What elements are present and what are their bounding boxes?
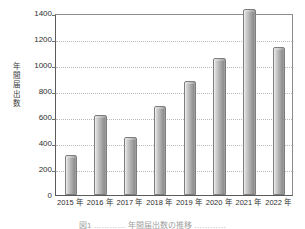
y-axis-title-char: 数: [10, 99, 22, 108]
y-axis-tick-labels: 0200400600800100012001400: [22, 0, 52, 229]
plot-area: [55, 14, 293, 196]
bar-fill: [154, 106, 166, 195]
y-axis-title-char: 出: [10, 90, 22, 99]
bar-fill: [94, 115, 106, 195]
x-axis-tick-label: 2015 年: [55, 198, 85, 207]
bar-fill: [213, 58, 225, 195]
bar: [243, 9, 255, 195]
bar-fill: [184, 81, 196, 195]
y-axis-tick-label: 0: [22, 192, 52, 200]
bar: [154, 106, 166, 195]
x-axis-tick-labels: 2015 年2016 年2017 年2018 年2019 年2020 年2021…: [55, 198, 293, 210]
y-axis-tick-label: 1400: [22, 10, 52, 18]
bar: [94, 115, 106, 195]
x-axis-tick-label: 2016 年: [85, 198, 115, 207]
bar: [213, 58, 225, 195]
bar-fill: [273, 47, 285, 195]
figure-caption: 図1 ………… 年間届出数の推移 …………: [0, 221, 305, 229]
bar: [184, 81, 196, 195]
bar: [65, 155, 77, 195]
bar-chart-figure: 年 間 届 出 数 0200400600800100012001400 2015…: [0, 0, 305, 229]
y-axis-tick-label: 400: [22, 140, 52, 148]
y-axis-title: 年 間 届 出 数: [10, 62, 22, 108]
y-axis-title-char: 届: [10, 80, 22, 89]
y-axis-tick-label: 800: [22, 88, 52, 96]
bar-fill: [243, 9, 255, 195]
bar-fill: [65, 155, 77, 195]
x-axis-tick-label: 2018 年: [144, 198, 174, 207]
y-axis-title-char: 年: [10, 62, 22, 71]
x-axis-tick-label: 2019 年: [174, 198, 204, 207]
bar: [124, 137, 136, 195]
x-axis-tick-label: 2020 年: [204, 198, 234, 207]
y-axis-tick-label: 200: [22, 166, 52, 174]
y-axis-tick-label: 600: [22, 114, 52, 122]
y-axis-title-char: 間: [10, 71, 22, 80]
y-axis-tick-label: 1200: [22, 36, 52, 44]
bar-series: [56, 0, 292, 195]
x-axis-tick-label: 2022 年: [263, 198, 293, 207]
y-axis-tick-label: 1000: [22, 62, 52, 70]
bar-fill: [124, 137, 136, 195]
x-axis-tick-label: 2017 年: [115, 198, 145, 207]
bar: [273, 47, 285, 195]
x-axis-tick-label: 2021 年: [234, 198, 264, 207]
